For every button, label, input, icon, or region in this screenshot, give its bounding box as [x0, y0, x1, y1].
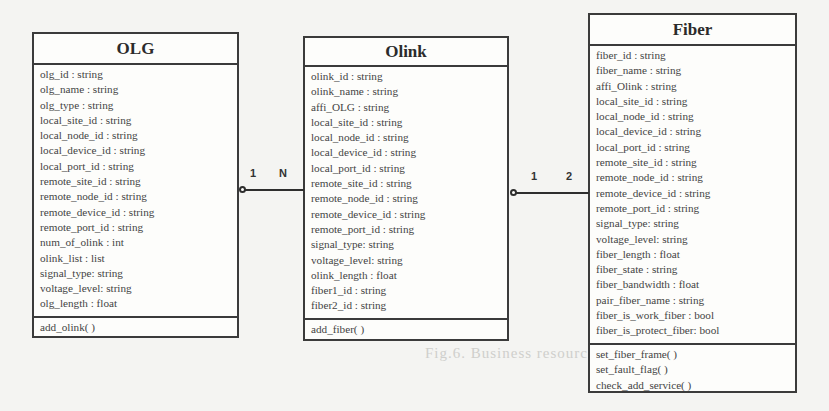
attribute: voltage_level: string	[311, 253, 507, 268]
attribute: olg_id : string	[40, 67, 237, 82]
attribute: fiber_id : string	[596, 48, 795, 63]
method-list: set_fiber_frame( ) set_fault_flag( ) che…	[590, 343, 795, 393]
attribute: olink_list : list	[40, 251, 237, 266]
attribute: remote_node_id : string	[40, 189, 237, 204]
attribute: remote_site_id : string	[311, 176, 507, 191]
method-list: add_fiber( )	[305, 318, 507, 337]
attribute: remote_port_id : string	[311, 222, 507, 237]
class-olink: Olink olink_id : string olink_name : str…	[303, 36, 509, 341]
association-olink-fiber-line	[516, 192, 589, 194]
attribute: local_device_id : string	[40, 143, 237, 158]
attribute: fiber_is_work_fiber : bool	[596, 308, 795, 323]
multiplicity-label: 1	[531, 170, 537, 182]
method: check_add_service( )	[596, 378, 795, 393]
method: set_fault_flag( )	[596, 362, 795, 377]
attribute: signal_type: string	[40, 266, 237, 281]
attribute: remote_port_id : string	[596, 201, 795, 216]
attribute: olg_length : float	[40, 296, 237, 311]
attribute: olg_type : string	[40, 98, 237, 113]
attribute: local_node_id : string	[596, 109, 795, 124]
attribute: remote_device_id : string	[311, 207, 507, 222]
attribute: remote_node_id : string	[596, 170, 795, 185]
attribute: remote_site_id : string	[596, 155, 795, 170]
multiplicity-label: 1	[250, 167, 256, 179]
class-name: OLG	[34, 34, 237, 65]
attribute: remote_device_id : string	[596, 186, 795, 201]
attribute: local_site_id : string	[311, 115, 507, 130]
attribute-list: olink_id : string olink_name : string af…	[305, 67, 507, 318]
attribute: local_node_id : string	[40, 128, 237, 143]
multiplicity-label: 2	[566, 170, 572, 182]
attribute: local_port_id : string	[596, 140, 795, 155]
attribute: fiber_is_protect_fiber: bool	[596, 323, 795, 338]
class-name: Olink	[305, 38, 507, 67]
method: set_fiber_frame( )	[596, 347, 795, 362]
attribute: local_node_id : string	[311, 130, 507, 145]
attribute: fiber1_id : string	[311, 283, 507, 298]
attribute: remote_port_id : string	[40, 220, 237, 235]
attribute: local_port_id : string	[311, 161, 507, 176]
method: add_fiber( )	[311, 322, 507, 337]
attribute: fiber_bandwidth : float	[596, 277, 795, 292]
attribute: local_site_id : string	[40, 113, 237, 128]
method: add_olink( )	[40, 320, 237, 335]
method-list: add_olink( )	[34, 316, 237, 335]
attribute: local_site_id : string	[596, 94, 795, 109]
attribute: local_port_id : string	[40, 159, 237, 174]
attribute: fiber_state : string	[596, 262, 795, 277]
attribute: remote_device_id : string	[40, 205, 237, 220]
attribute: remote_site_id : string	[40, 174, 237, 189]
attribute: fiber2_id : string	[311, 298, 507, 313]
attribute: signal_type: string	[311, 237, 507, 252]
attribute: num_of_olink : int	[40, 235, 237, 250]
class-fiber: Fiber fiber_id : string fiber_name : str…	[588, 13, 797, 393]
attribute: olink_name : string	[311, 84, 507, 99]
attribute: olg_name : string	[40, 82, 237, 97]
attribute: olink_length : float	[311, 268, 507, 283]
attribute: pair_fiber_name : string	[596, 293, 795, 308]
attribute-list: fiber_id : string fiber_name : string af…	[590, 46, 795, 343]
aggregation-diamond-icon	[239, 186, 246, 193]
attribute: local_device_id : string	[596, 124, 795, 139]
attribute-list: olg_id : string olg_name : string olg_ty…	[34, 65, 237, 316]
class-olg: OLG olg_id : string olg_name : string ol…	[32, 32, 239, 338]
attribute: olink_id : string	[311, 69, 507, 84]
attribute: affi_Olink : string	[596, 79, 795, 94]
attribute: voltage_level: string	[40, 281, 237, 296]
association-olg-olink-line	[245, 189, 304, 191]
attribute: local_device_id : string	[311, 145, 507, 160]
attribute: voltage_level: string	[596, 232, 795, 247]
attribute: affi_OLG : string	[311, 100, 507, 115]
attribute: remote_node_id : string	[311, 191, 507, 206]
aggregation-diamond-icon	[510, 189, 517, 196]
attribute: fiber_name : string	[596, 63, 795, 78]
attribute: signal_type: string	[596, 216, 795, 231]
class-name: Fiber	[590, 15, 795, 46]
multiplicity-label: N	[279, 167, 287, 179]
attribute: fiber_length : float	[596, 247, 795, 262]
